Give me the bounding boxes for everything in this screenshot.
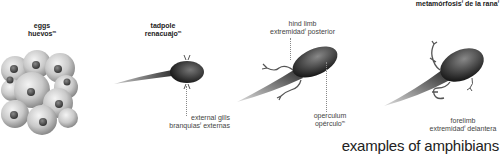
gender-marker: m — [52, 29, 56, 34]
callout-hind-limb: hind limb extremidadf posterior — [255, 20, 350, 36]
label-es-rest: externas — [201, 122, 230, 129]
label-tadpole: tadpole renacuajom — [138, 22, 188, 38]
tadpole-illustration — [110, 50, 210, 90]
callout-external-gills: external gills branquiasf externas — [150, 114, 230, 130]
gills-leader-line — [186, 86, 187, 116]
gender-marker: m — [178, 29, 182, 34]
gender-marker: m — [342, 119, 345, 124]
label-en: external gills — [150, 114, 230, 122]
tadpole-hind-legs-illustration — [235, 40, 345, 105]
operculum-leader-line — [326, 62, 327, 112]
gender-marker: f — [498, 0, 499, 4]
title-rest: de la rana — [463, 0, 498, 7]
title-text: metamórfosis — [416, 0, 462, 7]
label-es: huevos — [28, 30, 53, 37]
label-es: renacuajo — [145, 30, 178, 37]
eggs-illustration — [0, 42, 90, 137]
label-es-rest: delantera — [465, 125, 496, 132]
section-heading: examples of amphibians — [342, 137, 499, 154]
label-en: forelimb — [425, 117, 501, 125]
callout-operculum: operculum opérculom — [300, 112, 360, 128]
callout-forelimb: forelimb extremidadf delantera — [425, 117, 501, 133]
label-en: operculum — [300, 112, 360, 120]
label-es: opérculo — [315, 120, 342, 127]
froglet-illustration — [380, 40, 495, 110]
label-es: extremidad — [270, 28, 305, 35]
label-en: hind limb — [255, 20, 350, 28]
label-eggs: eggs huevosm — [22, 22, 62, 38]
label-es: branquias — [169, 122, 200, 129]
diagram-title: metamórfosisf de la ranaf — [416, 0, 499, 7]
label-es-rest: posterior — [306, 28, 335, 35]
label-es: extremidad — [430, 125, 465, 132]
